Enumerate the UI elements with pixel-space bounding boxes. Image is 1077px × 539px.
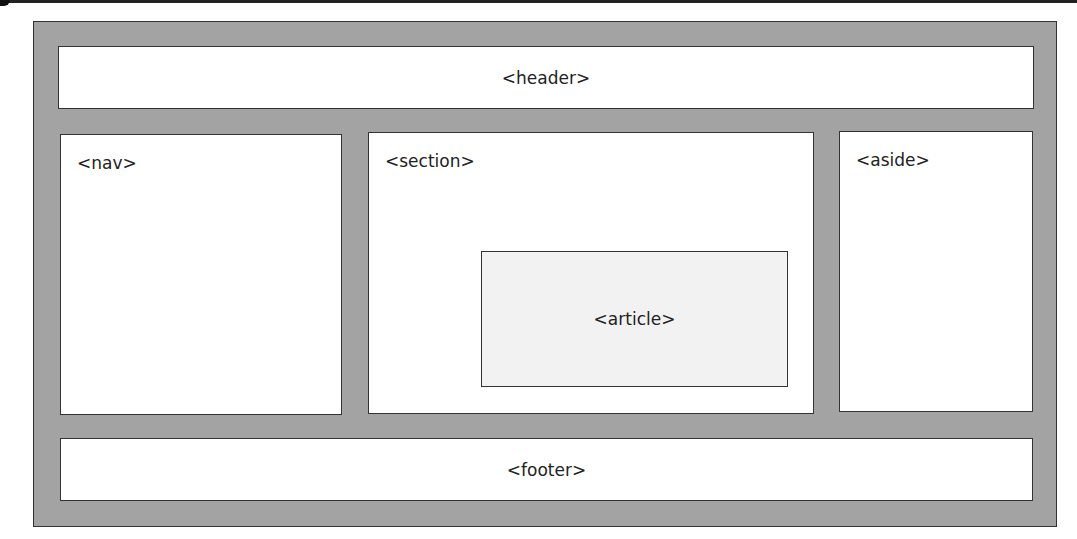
nav-block: <nav>	[60, 134, 342, 415]
section-label: <section>	[385, 151, 475, 171]
aside-block: <aside>	[839, 131, 1033, 412]
footer-block: <footer>	[60, 438, 1033, 501]
nav-label: <nav>	[77, 153, 137, 173]
top-edge-line	[0, 0, 1077, 3]
article-block: <article>	[481, 251, 788, 387]
top-edge-cap	[0, 0, 10, 6]
footer-label: <footer>	[507, 460, 586, 480]
header-label: <header>	[502, 68, 590, 88]
article-label: <article>	[594, 309, 676, 329]
header-block: <header>	[58, 46, 1034, 109]
aside-label: <aside>	[856, 150, 930, 170]
